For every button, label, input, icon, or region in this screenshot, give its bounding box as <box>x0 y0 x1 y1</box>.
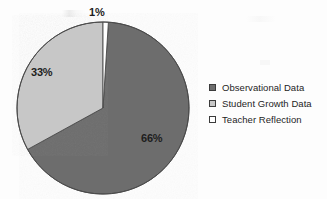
legend-swatch-observational-data <box>209 84 216 91</box>
legend-item-teacher-reflection: Teacher Reflection <box>209 111 324 127</box>
legend-label-observational-data: Observational Data <box>222 82 304 93</box>
legend-swatch-student-growth-data <box>209 100 216 107</box>
pie-label-observational: 66% <box>141 132 162 144</box>
pie-chart-figure: 1% 33% 66% Observational Data Student Gr… <box>0 0 327 199</box>
legend-label-student-growth-data: Student Growth Data <box>222 98 312 109</box>
pie-label-student-growth: 33% <box>31 66 52 78</box>
chart-legend: Observational Data Student Growth Data T… <box>209 79 324 127</box>
legend-swatch-teacher-reflection <box>209 116 216 123</box>
scan-artifact-top-right <box>246 16 276 22</box>
pie-chart-area: 1% 33% 66% <box>0 0 205 199</box>
scan-artifact-legend-top <box>260 60 270 65</box>
legend-label-teacher-reflection: Teacher Reflection <box>222 114 302 125</box>
legend-item-student-growth-data: Student Growth Data <box>209 95 324 111</box>
pie-label-teacher-reflection: 1% <box>89 6 105 18</box>
legend-item-observational-data: Observational Data <box>209 79 324 95</box>
pie-chart-svg <box>0 0 205 199</box>
